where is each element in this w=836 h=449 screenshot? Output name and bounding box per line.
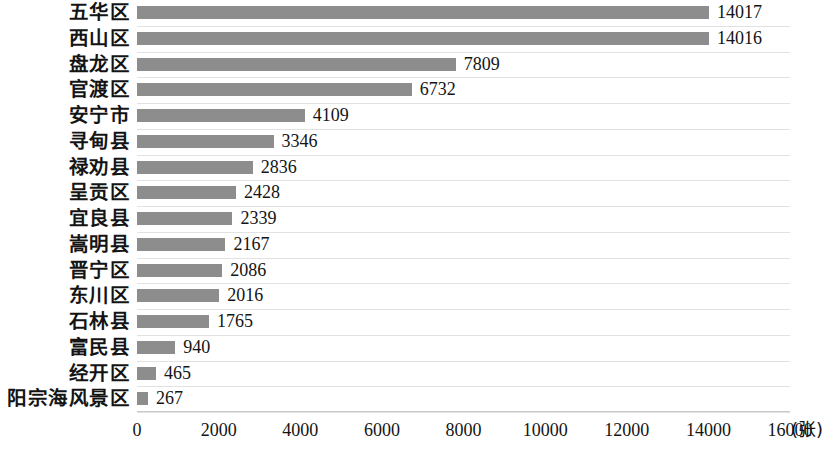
x-tick-label: 16000 [768,418,813,442]
x-axis: (张) 020004000600080001000012000140001600… [137,414,836,449]
bar-value-label: 3346 [282,129,318,155]
bar [137,315,209,328]
bar-value-label: 267 [156,386,183,412]
x-tick-label: 14000 [686,418,731,442]
bar [137,186,236,199]
bar-row: 2086 [137,258,790,284]
category-label: 禄劝县 [69,155,131,181]
bar [137,109,305,122]
bar [137,6,709,19]
category-label: 寻甸县 [69,129,131,155]
bar-value-label: 14017 [717,0,762,26]
bar-value-label: 7809 [464,52,500,78]
bar-row: 1765 [137,309,790,335]
bar [137,135,274,148]
x-tick-label: 12000 [604,418,649,442]
bar-value-label: 2836 [261,155,297,181]
bar-row: 2428 [137,180,790,206]
category-label: 盘龙区 [69,52,131,78]
bar [137,289,219,302]
category-label: 富民县 [69,335,131,361]
category-label: 经开区 [69,361,131,387]
bar [137,161,253,174]
bar [137,238,225,251]
bar-row: 267 [137,386,790,412]
bar-value-label: 14016 [717,26,762,52]
x-tick-label: 10000 [523,418,568,442]
x-tick-label: 4000 [282,418,318,442]
category-label: 宜良县 [69,206,131,232]
bar [137,32,709,45]
bar [137,83,412,96]
category-label: 五华区 [69,0,131,26]
plot-area: 1401714016780967324109334628362428233921… [137,0,790,412]
bar-value-label: 1765 [217,309,253,335]
bar-row: 2339 [137,206,790,232]
bar-value-label: 2339 [240,206,276,232]
x-tick-label: 8000 [446,418,482,442]
category-axis: 五华区西山区盘龙区官渡区安宁市寻甸县禄劝县呈贡区宜良县嵩明县晋宁区东川区石林县富… [0,0,133,412]
bar-row: 3346 [137,129,790,155]
bar-row: 940 [137,335,790,361]
category-label: 阳宗海风景区 [7,386,130,412]
category-label: 呈贡区 [69,180,131,206]
bar-value-label: 2167 [233,232,269,258]
bar-row: 2167 [137,232,790,258]
category-label: 东川区 [69,283,131,309]
bar-chart: 五华区西山区盘龙区官渡区安宁市寻甸县禄劝县呈贡区宜良县嵩明县晋宁区东川区石林县富… [0,0,836,449]
category-label: 安宁市 [69,103,131,129]
bar-value-label: 4109 [313,103,349,129]
category-label: 嵩明县 [69,232,131,258]
bar-row: 465 [137,361,790,387]
bar-row: 14016 [137,26,790,52]
category-label: 官渡区 [69,77,131,103]
category-label: 西山区 [69,26,131,52]
category-label: 石林县 [69,309,131,335]
bar [137,341,175,354]
bar-value-label: 6732 [420,77,456,103]
bar-row: 14017 [137,0,790,26]
category-label: 晋宁区 [69,258,131,284]
bar-value-label: 940 [183,335,210,361]
bar-row: 7809 [137,52,790,78]
bar [137,58,456,71]
gridline [137,412,790,413]
bar-row: 2836 [137,155,790,181]
bar-row: 6732 [137,77,790,103]
bar-value-label: 2016 [227,283,263,309]
x-tick-label: 6000 [364,418,400,442]
bar [137,367,156,380]
bar [137,264,222,277]
x-tick-label: 0 [133,418,142,442]
bar-value-label: 465 [164,361,191,387]
x-tick-label: 2000 [201,418,237,442]
bar [137,212,232,225]
bar-value-label: 2086 [230,258,266,284]
bar [137,392,148,405]
bar-row: 2016 [137,283,790,309]
bar-row: 4109 [137,103,790,129]
bar-value-label: 2428 [244,180,280,206]
